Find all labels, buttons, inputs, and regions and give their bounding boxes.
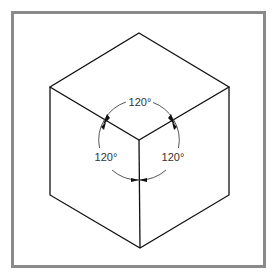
diagram-frame: 120° 120° 120° [0,0,276,274]
angle-label-right: 120° [162,151,185,163]
angle-label-left: 120° [95,151,118,163]
isometric-cube-figure: 120° 120° 120° [0,0,276,274]
angle-label-top: 120° [129,96,152,108]
